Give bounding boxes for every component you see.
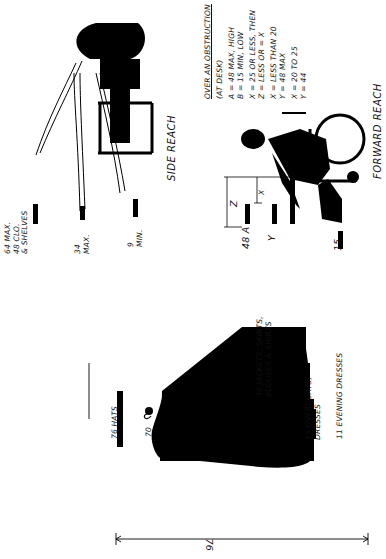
label-34-max: 34 MAX. bbox=[74, 234, 91, 254]
side-reach-figure bbox=[33, 23, 152, 224]
label-jackets: 36 JACKETS, SKIRTS, BLOUSES & SHIRTS bbox=[256, 316, 273, 397]
label-x: X bbox=[258, 190, 267, 195]
label-overcoats: 15 OVERCOATS, DRESSES bbox=[305, 377, 322, 440]
notes-subheading: (AT DESK) bbox=[216, 0, 225, 99]
note-line: Z = LESS OR = X bbox=[258, 0, 267, 99]
forward-reach-notes: OVER AN OBSTRUCTION (AT DESK) A = 48 MAX… bbox=[204, 0, 308, 99]
label-hats: 76 HATS bbox=[111, 406, 120, 439]
label-15-b: 15 bbox=[332, 239, 343, 252]
label-64-max: 64 MAX. 48 CLO. & SHELVES bbox=[4, 211, 30, 254]
label-48-a: 48 A bbox=[240, 227, 251, 249]
drawing-frame: 76 76 76 HATS 70 36 JACKETS, SKIRTS, BLO… bbox=[0, 0, 386, 559]
side-reach-title: SIDE REACH bbox=[166, 115, 177, 181]
note-line: Y = 44 bbox=[300, 0, 309, 99]
notes-heading: OVER AN OBSTRUCTION bbox=[204, 0, 213, 99]
forward-reach-title: FORWARD REACH bbox=[372, 83, 383, 179]
line-work bbox=[0, 0, 386, 559]
label-9-min: 9 MIN. bbox=[127, 230, 144, 247]
label-evening-dresses: 11 EVENING DRESSES bbox=[336, 353, 345, 439]
label-rod: 70 bbox=[145, 427, 154, 437]
closet-dimension-line bbox=[116, 533, 368, 545]
note-line: Y = 48 MAX bbox=[279, 0, 288, 99]
label-z: Z bbox=[228, 200, 239, 207]
closet-overall-dimension-label: 76 bbox=[204, 539, 215, 552]
note-line: B = 15 MIN, LOW bbox=[237, 0, 246, 99]
label-y: Y bbox=[266, 235, 277, 241]
